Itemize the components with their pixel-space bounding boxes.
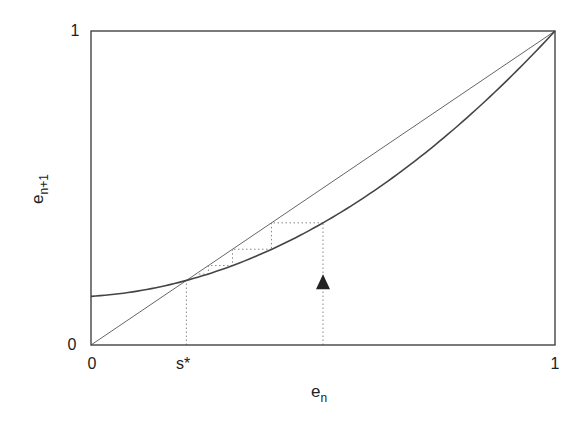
x-tick-s-star: s* xyxy=(176,355,190,372)
y-axis-label: en+1 xyxy=(28,174,51,204)
x-tick-1: 1 xyxy=(551,355,560,372)
y-axis-label-sub: n+1 xyxy=(37,174,51,195)
x-tick-0: 0 xyxy=(88,355,97,372)
x-axis-label-sub: n xyxy=(320,391,327,405)
triangle-up-icon xyxy=(316,274,330,289)
y-axis-label-main: e xyxy=(28,195,47,204)
x-axis-label: en xyxy=(311,382,327,405)
y-tick-1: 1 xyxy=(71,22,80,39)
cobweb-chart: 1 0 0 s* 1 en en+1 xyxy=(0,0,586,432)
identity-line xyxy=(91,31,555,345)
y-tick-0: 0 xyxy=(68,336,77,353)
plot-area xyxy=(91,31,555,345)
x-axis-label-main: e xyxy=(311,382,320,401)
